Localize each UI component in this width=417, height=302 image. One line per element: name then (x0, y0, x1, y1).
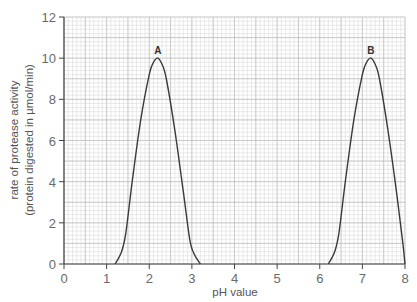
x-tick-label: 3 (188, 271, 195, 286)
y-tick-label: 12 (42, 10, 56, 25)
x-axis-label: pH value (212, 286, 257, 298)
x-tick-label: 5 (274, 271, 281, 286)
peak-label-a: A (154, 45, 161, 56)
grid (64, 17, 405, 264)
y-tick-label: 4 (49, 175, 56, 190)
peak-label-b: B (367, 45, 374, 56)
x-tick-label: 4 (231, 271, 238, 286)
x-tick-label: 1 (103, 271, 110, 286)
x-tick-label: 8 (401, 271, 408, 286)
x-tick-label: 0 (60, 271, 67, 286)
x-tick-label: 2 (146, 271, 153, 286)
y-tick-label: 6 (49, 134, 56, 149)
y-tick-label: 2 (49, 216, 56, 231)
x-tick-labels: 012345678 (60, 271, 408, 286)
y-tick-label: 10 (42, 51, 56, 66)
y-tick-labels: 024681012 (42, 10, 56, 272)
y-axis-label-line2: (protein digested in µmol/min) (23, 64, 35, 216)
x-tick-label: 6 (316, 271, 323, 286)
y-axis-label-line1: rate of protease activity (8, 80, 20, 199)
y-tick-label: 0 (49, 257, 56, 272)
y-tick-label: 8 (49, 92, 56, 107)
x-tick-label: 7 (359, 271, 366, 286)
protease-ph-chart: 012345678 024681012 AB pH value rate of … (0, 0, 417, 302)
